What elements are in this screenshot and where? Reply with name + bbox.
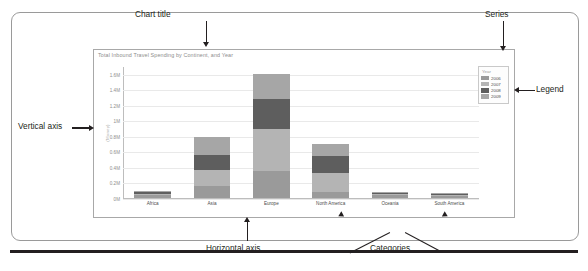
bar-segment[interactable]: [194, 137, 231, 154]
annotation-legend: Legend: [536, 84, 564, 94]
annotation-horizontal-axis: Horizontal axis: [206, 243, 260, 253]
bar-segment[interactable]: [253, 171, 290, 198]
gridline: [123, 152, 479, 153]
gridline: [123, 90, 479, 91]
legend-entry[interactable]: 2009: [481, 94, 506, 99]
horizontal-axis-tick-label: Europe: [264, 201, 279, 206]
gridline: [123, 106, 479, 107]
leader-chart-title: [206, 21, 207, 43]
bar-column[interactable]: Asia: [194, 137, 231, 198]
legend-entry[interactable]: 2007: [481, 82, 506, 87]
legend-entries[interactable]: 2006200720082009: [481, 76, 506, 100]
legend-label: 2007: [491, 82, 501, 87]
legend-swatch: [481, 94, 489, 99]
bottom-divider: [10, 250, 578, 253]
vertical-axis-tick-label: 1.4M: [110, 88, 120, 93]
leader-legend: [519, 90, 535, 91]
vertical-axis-tick-label: 0.8M: [110, 134, 120, 139]
horizontal-axis-tick-label: Oceania: [381, 201, 398, 206]
arrowhead-vertical-axis: [89, 125, 94, 131]
gridline: [123, 137, 479, 138]
bar-segment[interactable]: [312, 192, 349, 198]
annotation-chart-title: Chart title: [135, 9, 171, 19]
bar-column[interactable]: North America: [312, 144, 349, 198]
horizontal-axis-tick-label: Asia: [208, 201, 217, 206]
horizontal-axis-tick-label: North America: [316, 201, 345, 206]
gridline: [123, 75, 479, 76]
vertical-axis-line: [123, 67, 124, 199]
bar-segment[interactable]: [312, 144, 349, 156]
annotation-vertical-axis: Vertical axis: [18, 121, 62, 131]
bar-segment[interactable]: [431, 196, 468, 198]
vertical-axis-tick-label: 0.6M: [110, 150, 120, 155]
bar-segment[interactable]: [372, 195, 409, 198]
gridline: [123, 199, 479, 200]
bar-segment[interactable]: [134, 195, 171, 198]
arrowhead-chart-title: [203, 42, 209, 47]
legend-swatch: [481, 76, 489, 81]
vertical-axis-tick-label: 0.4M: [110, 165, 120, 170]
arrowhead-series: [500, 46, 506, 51]
plot-area: (Money) 0M0.2M0.4M0.6M0.8M1M1.2M1.4M1.6M…: [123, 67, 479, 199]
diagram-canvas: Total Inbound Travel Spending by Contine…: [0, 0, 588, 271]
bar-segment[interactable]: [253, 129, 290, 171]
leader-vertical-axis: [72, 127, 90, 128]
chart-title: Total Inbound Travel Spending by Contine…: [98, 52, 233, 58]
bar-segment[interactable]: [194, 186, 231, 198]
legend-title: Year: [481, 69, 506, 74]
vertical-axis-tick-label: 0M: [114, 197, 120, 202]
bar-segment[interactable]: [253, 99, 290, 128]
vertical-axis-tick-label: 1.6M: [110, 72, 120, 77]
legend[interactable]: Year 2006200720082009: [478, 66, 509, 104]
legend-entry[interactable]: 2008: [481, 88, 506, 93]
arrowhead-horizontal-axis: [244, 217, 250, 222]
bar-segment[interactable]: [194, 155, 231, 171]
leader-series: [503, 21, 504, 47]
legend-swatch: [481, 88, 489, 93]
chart-panel[interactable]: Total Inbound Travel Spending by Contine…: [93, 49, 515, 218]
vertical-axis-tick-label: 1M: [114, 119, 120, 124]
bar-segment[interactable]: [194, 170, 231, 186]
bar-segment[interactable]: [312, 156, 349, 173]
annotation-series: Series: [485, 9, 509, 19]
bar-column[interactable]: Africa: [134, 191, 171, 198]
legend-label: 2006: [491, 76, 501, 81]
gridline: [123, 168, 479, 169]
bar-column[interactable]: South America: [431, 193, 468, 198]
legend-swatch: [481, 82, 489, 87]
bar-column[interactable]: Oceania: [372, 192, 409, 198]
annotation-categories: Categories: [370, 243, 410, 253]
horizontal-axis-tick-label: South America: [434, 201, 464, 206]
gridline: [123, 183, 479, 184]
horizontal-axis-tick-label: Africa: [147, 201, 159, 206]
legend-entry[interactable]: 2006: [481, 76, 506, 81]
bar-segment[interactable]: [253, 74, 290, 100]
legend-label: 2008: [491, 88, 501, 93]
gridline: [123, 121, 479, 122]
bar-column[interactable]: Europe: [253, 74, 290, 198]
arrowhead-legend: [514, 87, 519, 93]
leader-horizontal-axis: [247, 222, 248, 241]
bar-segment[interactable]: [312, 173, 349, 192]
vertical-axis-tick-label: 0.2M: [110, 181, 120, 186]
vertical-axis-tick-label: 1.2M: [110, 103, 120, 108]
legend-label: 2009: [491, 94, 501, 99]
